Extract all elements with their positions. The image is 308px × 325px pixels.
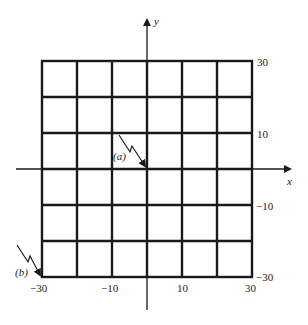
marker-b-label: (b) (15, 266, 28, 279)
x-tick-label: 10 (177, 282, 189, 294)
marker-a-label: (a) (113, 150, 126, 163)
grid (42, 61, 252, 277)
x-tick-label: −10 (101, 282, 119, 294)
x-axis-label: x (286, 175, 292, 187)
x-tick-label: −30 (30, 282, 48, 294)
coordinate-grid-diagram: y x 30 10 −10 −30 −30 −10 10 30 (a) (b) (0, 0, 308, 325)
y-tick-label: 10 (257, 128, 269, 140)
marker-b: (b) (15, 245, 40, 279)
y-axis-label: y (153, 15, 159, 27)
marker-a: (a) (113, 135, 145, 166)
x-tick-label: 30 (245, 282, 257, 294)
y-tick-label: 30 (257, 56, 269, 68)
y-tick-label: −30 (256, 271, 274, 283)
y-tick-label: −10 (256, 200, 274, 212)
